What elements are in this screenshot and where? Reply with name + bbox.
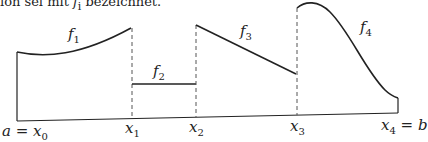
f4-curve [297, 3, 398, 98]
x-axis-baseline [17, 113, 398, 121]
f1-label: f1 [68, 25, 80, 45]
x4-label: x4 = b [381, 116, 428, 136]
f2-label: f2 [153, 62, 165, 82]
x0-label: a = x0 [2, 122, 48, 142]
x3-label: x3 [290, 117, 305, 137]
f3-label: f3 [240, 22, 252, 42]
f4-label: f4 [360, 18, 372, 38]
x2-label: x2 [189, 118, 204, 138]
x1-label: x1 [125, 119, 140, 139]
